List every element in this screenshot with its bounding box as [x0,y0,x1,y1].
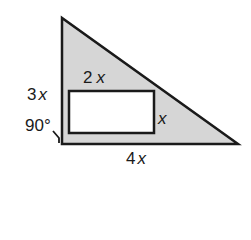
coefficient: 2 [83,68,92,87]
label-triangle-height: 3x [27,86,47,103]
label-right-angle: 90° [25,117,51,134]
label-triangle-base: 4x [126,150,146,167]
variable: x [96,68,105,87]
coefficient: 4 [126,149,135,168]
label-rect-height: x [158,110,167,127]
variable: x [137,149,146,168]
label-rect-width: 2x [83,69,105,86]
coefficient: 3 [27,85,36,104]
right-angle-marker [53,131,59,143]
variable: x [38,85,47,104]
variable: x [158,109,167,128]
inscribed-rectangle [69,91,154,133]
